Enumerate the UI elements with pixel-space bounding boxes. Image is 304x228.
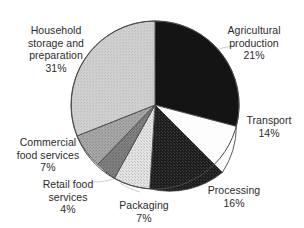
pie-label-processing-percent: 16% [192, 197, 276, 209]
pie-label-processing-text: Processing [208, 184, 260, 196]
pie-label-agricultural-percent: 21% [208, 49, 300, 61]
pie-label-transport-percent: 14% [236, 127, 302, 139]
pie-label-processing: Processing 16% [192, 172, 276, 222]
pie-label-commercial-text: Commercial food services [17, 136, 80, 160]
pie-label-packaging: Packaging 7% [108, 187, 180, 228]
pie-label-packaging-text: Packaging [119, 199, 168, 211]
pie-label-household-storage-and-preparation: Household storage and preparation 31% [8, 12, 104, 86]
pie-label-commercial-percent: 7% [2, 161, 94, 173]
pie-label-commercial-food-services: Commercial food services 7% [2, 124, 94, 186]
pie-label-household-text: Household storage and preparation [28, 24, 84, 61]
pie-chart-figure: Household storage and preparation 31% Ag… [0, 0, 304, 228]
pie-label-transport: Transport 14% [236, 102, 302, 152]
pie-label-retail-percent: 4% [30, 203, 106, 215]
pie-label-household-percent: 31% [8, 62, 104, 74]
pie-label-transport-text: Transport [247, 114, 292, 126]
pie-label-agricultural-text: Agricultural production [227, 24, 280, 48]
pie-label-agricultural-production: Agricultural production 21% [208, 12, 300, 74]
pie-label-packaging-percent: 7% [108, 212, 180, 224]
